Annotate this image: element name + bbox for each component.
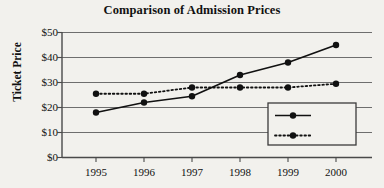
- legend-marker-park-b: [290, 132, 296, 138]
- data-point-park-b-1995: [93, 91, 99, 97]
- data-point-park-a-1999: [285, 59, 291, 65]
- data-point-park-b-2000: [333, 81, 339, 87]
- legend-marker-park-a: [290, 112, 296, 118]
- chart-container: Comparison of Admission Prices Ticket Pr…: [0, 0, 384, 188]
- data-point-park-a-1998: [237, 72, 243, 78]
- data-point-park-a-1996: [141, 99, 147, 105]
- y-axis-ticks: [57, 33, 62, 158]
- chart-legend: [268, 103, 356, 145]
- data-point-park-b-1999: [285, 84, 291, 90]
- data-point-park-a-2000: [333, 42, 339, 48]
- legend-box: [268, 103, 356, 145]
- data-point-park-b-1998: [237, 84, 243, 90]
- data-point-park-b-1997: [189, 84, 195, 90]
- plot-area: [0, 0, 384, 188]
- data-point-park-a-1995: [93, 109, 99, 115]
- data-point-park-a-1997: [189, 93, 195, 99]
- data-point-park-b-1996: [141, 91, 147, 97]
